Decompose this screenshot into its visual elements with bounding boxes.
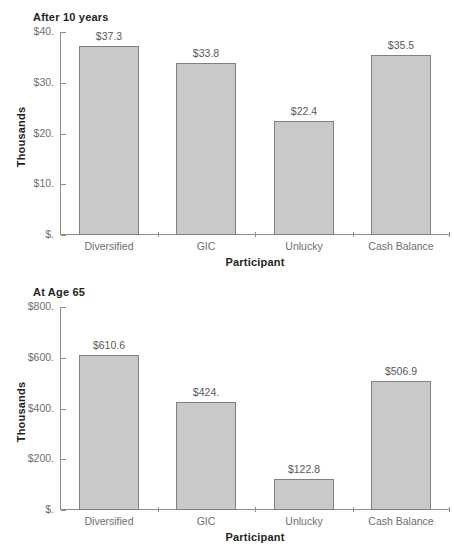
x-axis-tick-label: Unlucky [249,240,359,252]
y-axis-tick [61,459,66,460]
y-axis-tick-label: $20. [6,127,54,139]
bar-value-label: $506.9 [361,365,441,377]
x-axis-tick-label: Diversified [54,515,164,527]
y-axis-tick [61,510,66,511]
plot-area [60,307,450,510]
bar [371,381,431,510]
plot-area [60,32,450,235]
y-axis-tick [61,184,66,185]
x-axis-end-tick [449,507,450,512]
x-axis-tick [353,507,354,512]
x-axis-tick-label: Cash Balance [346,515,454,527]
x-axis-tick-label: GIC [151,240,261,252]
y-axis-tick [61,358,66,359]
y-axis-tick-label: $30. [6,76,54,88]
x-axis-label: Participant [60,531,450,543]
y-axis-tick [61,235,66,236]
bar-value-label: $424. [166,386,246,398]
y-axis-tick-label: $200. [6,452,54,464]
y-axis-tick [61,409,66,410]
y-axis-tick-label: $800. [6,300,54,312]
x-axis-label: Participant [60,256,450,268]
bar [79,46,139,235]
y-axis-tick-label: $. [6,503,54,515]
bar [371,55,431,235]
x-axis-tick [353,232,354,237]
x-axis-tick-label: GIC [151,515,261,527]
x-axis-tick [158,232,159,237]
x-axis-tick-label: Unlucky [249,515,359,527]
y-axis-tick-label: $600. [6,351,54,363]
y-axis-tick-label: $. [6,228,54,240]
y-axis-tick [61,32,66,33]
y-axis-tick-label: $10. [6,177,54,189]
y-axis-tick [61,134,66,135]
x-axis-tick [255,507,256,512]
x-axis-tick [158,507,159,512]
bar [176,63,236,235]
x-axis-tick [255,232,256,237]
chart-title: At Age 65 [33,286,85,298]
bar-value-label: $37.3 [69,30,149,42]
bar-chart-after-10-years: After 10 years Thousands $.$10.$20.$30.$… [0,0,454,275]
chart-title: After 10 years [33,11,109,23]
bar-value-label: $610.6 [69,339,149,351]
bar [274,479,334,510]
y-axis-tick-label: $40. [6,25,54,37]
bar-value-label: $22.4 [264,105,344,117]
x-axis-end-tick [449,232,450,237]
bar-chart-at-age-65: At Age 65 Thousands $.$200.$400.$600.$80… [0,275,454,550]
y-axis-tick [61,307,66,308]
x-axis-tick-label: Diversified [54,240,164,252]
bar-value-label: $33.8 [166,47,246,59]
bar [79,355,139,510]
bar-value-label: $122.8 [264,463,344,475]
y-axis-tick-label: $400. [6,402,54,414]
bar-value-label: $35.5 [361,39,441,51]
y-axis-tick [61,83,66,84]
x-axis-tick-label: Cash Balance [346,240,454,252]
bar [176,402,236,510]
bar [274,121,334,235]
